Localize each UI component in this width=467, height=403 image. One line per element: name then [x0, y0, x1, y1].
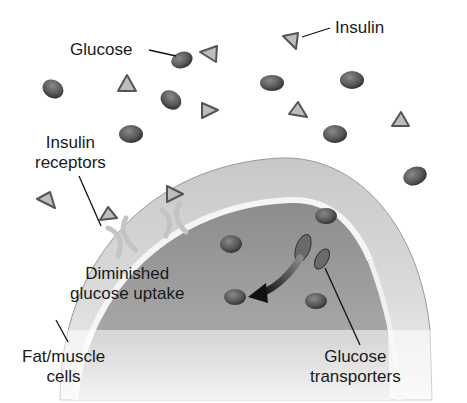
glucose-molecule	[305, 293, 327, 309]
insulin-molecule	[200, 46, 217, 62]
insulin-molecule	[392, 112, 409, 126]
diagram-canvas: Glucose Insulin Insulin receptors Dimini…	[0, 0, 467, 403]
label-fat-muscle-line2: cells	[22, 367, 105, 387]
glucose-molecule	[157, 86, 185, 113]
glucose-molecule	[260, 75, 284, 91]
glucose-molecule	[401, 163, 430, 188]
glucose-molecule	[224, 289, 246, 305]
label-glucose-transporters-line1: Glucose	[310, 347, 401, 367]
label-insulin-receptors-line1: Insulin	[35, 133, 106, 153]
insulin-molecule	[118, 75, 136, 91]
insulin-molecule	[283, 33, 298, 49]
label-glucose-transporters: Glucose transporters	[310, 347, 401, 387]
insulin-molecule	[289, 102, 307, 117]
label-fat-muscle-line1: Fat/muscle	[22, 347, 105, 367]
label-fat-muscle-cells: Fat/muscle cells	[22, 347, 105, 387]
insulin-molecule	[37, 192, 55, 208]
glucose-molecule	[39, 76, 67, 103]
glucose-molecule	[315, 208, 337, 224]
label-diminished-line2: glucose uptake	[70, 284, 184, 304]
glucose-molecule	[340, 71, 364, 89]
label-glucose: Glucose	[70, 40, 132, 60]
label-insulin-receptors: Insulin receptors	[35, 133, 106, 173]
glucose-molecule	[220, 235, 242, 253]
label-insulin-receptors-line2: receptors	[35, 153, 106, 173]
glucose-molecule	[169, 49, 195, 72]
label-insulin: Insulin	[335, 18, 384, 38]
insulin-molecule	[100, 207, 117, 220]
label-diminished-uptake: Diminished glucose uptake	[70, 264, 184, 304]
glucose-molecule	[323, 125, 347, 143]
glucose-molecule	[119, 125, 143, 143]
diagram-graphics	[0, 0, 467, 403]
insulin-molecule	[202, 103, 218, 118]
label-glucose-transporters-line2: transporters	[310, 367, 401, 387]
label-diminished-line1: Diminished	[70, 264, 184, 284]
